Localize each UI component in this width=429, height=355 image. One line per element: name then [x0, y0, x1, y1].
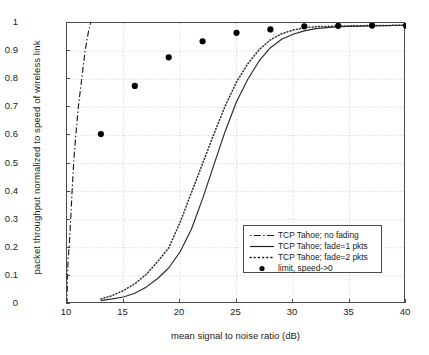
legend: TCP Tahoe; no fadingTCP Tahoe; fade=1 pk… — [243, 225, 382, 273]
legend-entry: TCP Tahoe; fade=1 pkts — [244, 241, 381, 252]
legend-sample-icon — [249, 241, 275, 251]
y-tick-label: 0.3 — [0, 214, 18, 224]
y-tick-label: 0.4 — [0, 186, 18, 196]
x-tick-mark — [292, 299, 293, 303]
y-tick-mark — [66, 275, 70, 276]
x-tick-mark — [349, 299, 350, 303]
x-tick-label: 25 — [216, 307, 256, 317]
y-tick-mark — [66, 22, 70, 23]
y-tick-mark — [66, 134, 70, 135]
y-tick-label: 0.8 — [0, 73, 18, 83]
legend-sample-icon — [249, 252, 275, 262]
legend-label: TCP Tahoe; fade=1 pkts — [278, 241, 368, 251]
marker-point — [166, 54, 172, 60]
y-tick-label: 0.9 — [0, 45, 18, 55]
y-tick-label: 0.6 — [0, 129, 18, 139]
x-tick-mark — [179, 299, 180, 303]
marker-series — [98, 23, 406, 137]
y-tick-mark — [66, 163, 70, 164]
y-tick-mark — [66, 78, 70, 79]
legend-entry: TCP Tahoe; no fading — [244, 230, 381, 241]
marker-point — [403, 23, 406, 29]
x-tick-label: 15 — [103, 307, 143, 317]
x-tick-mark — [236, 299, 237, 303]
legend-sample-dash-dot — [249, 230, 275, 240]
legend-entry: TCP Tahoe; fade=2 pkts — [244, 252, 381, 263]
y-tick-label: 0.7 — [0, 101, 18, 111]
marker-point — [233, 30, 239, 36]
y-tick-mark — [66, 106, 70, 107]
marker-point — [132, 83, 138, 89]
marker-point — [200, 38, 206, 44]
legend-sample-marker — [249, 263, 275, 273]
y-axis-label: packet throughput normalized to speed of… — [31, 18, 42, 298]
legend-label: limit, speed->0 — [278, 263, 333, 273]
legend-sample-solid — [249, 241, 275, 251]
legend-sample-icon — [249, 230, 275, 240]
y-tick-label: 0 — [0, 298, 18, 308]
y-tick-mark — [66, 219, 70, 220]
legend-label: TCP Tahoe; fade=2 pkts — [278, 252, 368, 262]
marker-point — [98, 131, 104, 137]
marker-point — [301, 23, 307, 29]
y-tick-mark — [66, 191, 70, 192]
x-tick-label: 35 — [329, 307, 369, 317]
x-tick-label: 10 — [46, 307, 86, 317]
marker-point — [369, 23, 375, 29]
marker-point — [335, 23, 341, 29]
y-tick-label: 0.2 — [0, 242, 18, 252]
legend-sample-icon — [249, 263, 275, 273]
legend-marker-icon — [259, 266, 264, 271]
legend-entry: limit, speed->0 — [244, 263, 381, 274]
x-tick-mark — [405, 299, 406, 303]
x-tick-mark — [123, 299, 124, 303]
y-tick-label: 0.1 — [0, 270, 18, 280]
y-tick-label: 1 — [0, 17, 18, 27]
marker-point — [267, 26, 273, 32]
x-tick-label: 40 — [385, 307, 425, 317]
y-tick-mark — [66, 50, 70, 51]
legend-sample-dotted — [249, 252, 275, 262]
x-tick-label: 30 — [272, 307, 312, 317]
legend-label: TCP Tahoe; no fading — [278, 230, 359, 240]
x-tick-label: 20 — [159, 307, 199, 317]
y-tick-mark — [66, 303, 70, 304]
y-tick-label: 0.5 — [0, 158, 18, 168]
x-axis-label: mean signal to noise ratio (dB) — [66, 330, 405, 341]
y-tick-mark — [66, 247, 70, 248]
figure: packet throughput normalized to speed of… — [0, 0, 429, 355]
